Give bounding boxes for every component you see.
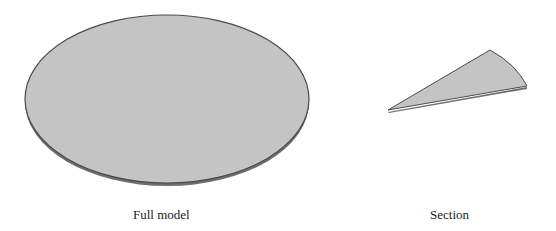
section-caption: Section xyxy=(430,207,469,223)
figure-canvas xyxy=(0,0,556,231)
section-wedge xyxy=(388,50,527,113)
full-model-disk xyxy=(25,15,309,186)
disk-top-face xyxy=(25,15,309,183)
full-model-caption: Full model xyxy=(133,207,190,223)
